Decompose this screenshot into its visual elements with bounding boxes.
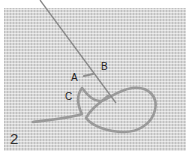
thread-entry-icon	[84, 74, 93, 76]
label-a: A	[71, 73, 78, 83]
label-c: C	[65, 92, 72, 102]
stitch-illustration	[0, 0, 186, 153]
step-number: 2	[10, 131, 18, 146]
label-b: B	[101, 62, 108, 72]
thread-icon	[33, 88, 156, 132]
needle-icon	[40, 0, 116, 103]
